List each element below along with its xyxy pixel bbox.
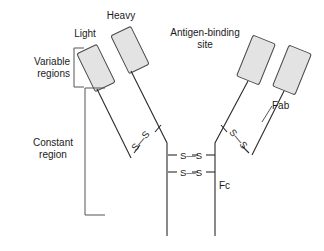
light-heavy-disulfide-right-label: S—S	[227, 127, 250, 151]
light-chain-line-left	[97, 89, 131, 158]
light-chain-variable-domain-left-group	[77, 44, 115, 91]
light-chain-variable-domain-right-group	[273, 45, 312, 95]
constant-region-label: Constant region	[22, 137, 84, 160]
light-heavy-disulfide-right-group: S—S	[221, 125, 250, 153]
antibody-structure-diagram: S—S S—S S—S S—S	[0, 0, 324, 251]
hinge-disulfide-lower-group: S—S	[168, 167, 215, 178]
heavy-chain-variable-domain-left-group	[111, 26, 149, 73]
light-heavy-disulfide-left-label: S—S	[129, 129, 152, 153]
variable-regions-label: Variable regions	[0, 56, 70, 79]
fc-label: Fc	[219, 180, 243, 192]
fab-label: Fab	[272, 100, 300, 112]
heavy-chain-variable-domain-left	[111, 26, 149, 73]
heavy-chain-label: Heavy	[98, 10, 144, 22]
heavy-chain-line-left	[131, 71, 167, 236]
hinge-disulfide-upper-label: S—S	[180, 150, 202, 161]
light-heavy-disulfide-left-group: S—S	[129, 125, 161, 153]
hinge-disulfide-upper-group: S—S	[168, 150, 215, 161]
hinge-disulfide-lower-label: S—S	[180, 167, 202, 178]
light-chain-label: Light	[63, 28, 107, 40]
heavy-chain-line-right	[215, 81, 248, 236]
constant-region-bracket	[85, 88, 105, 215]
fab-pointer-line	[262, 106, 272, 122]
light-chain-variable-domain-right	[273, 45, 312, 95]
antigen-binding-site-label: Antigen-binding site	[159, 27, 251, 50]
light-chain-variable-domain-left	[77, 44, 115, 91]
